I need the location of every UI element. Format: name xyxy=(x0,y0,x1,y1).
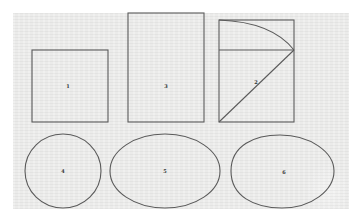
label-construction-rectangle: 2 xyxy=(254,79,258,85)
geometric-figure: 1 3 2 4 5 6 xyxy=(0,0,361,221)
diagonal-line xyxy=(219,50,294,122)
label-tall-rectangle: 3 xyxy=(164,83,168,89)
label-ellipse: 5 xyxy=(163,168,167,174)
label-square: 1 xyxy=(66,83,69,89)
label-egg-oval: 6 xyxy=(282,169,286,175)
construction-arc xyxy=(219,20,294,50)
tall-rectangle-shape xyxy=(128,13,204,122)
square-shape xyxy=(32,50,108,122)
label-circle: 4 xyxy=(61,168,65,174)
construction-rectangle-shape xyxy=(219,20,294,122)
